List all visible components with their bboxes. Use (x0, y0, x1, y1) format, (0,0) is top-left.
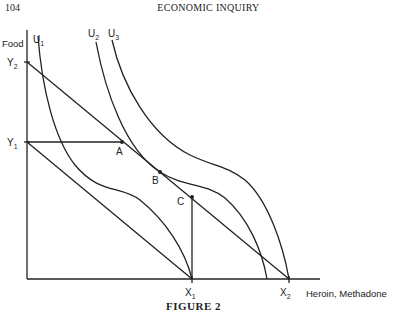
u3-label: U3 (108, 28, 119, 41)
y1-label: Y1 (7, 137, 18, 150)
u2-label: U2 (88, 28, 99, 41)
x-axis-label: Heroin, Methadone (306, 288, 387, 299)
point-c-marker (190, 195, 194, 199)
point-b-marker (158, 170, 162, 174)
budget-line-y1-x1 (27, 142, 192, 279)
y-axis-label: Food (2, 38, 24, 49)
indifference-curve-u2 (96, 42, 267, 279)
indifference-curve-u1 (38, 36, 192, 279)
point-b-label: B (152, 175, 159, 186)
y2-label: Y2 (7, 57, 18, 70)
point-c-label: C (177, 196, 184, 207)
point-a-marker (120, 140, 124, 144)
x2-label: X2 (280, 287, 291, 300)
figure-diagram: Food Heroin, Methadone Y2 Y1 X1 X2 U1 U2… (0, 0, 407, 300)
x1-label: X1 (185, 287, 196, 300)
indifference-curve-u3 (112, 40, 289, 279)
point-a-label: A (116, 146, 123, 157)
figure-caption: FIGURE 2 (0, 300, 407, 312)
